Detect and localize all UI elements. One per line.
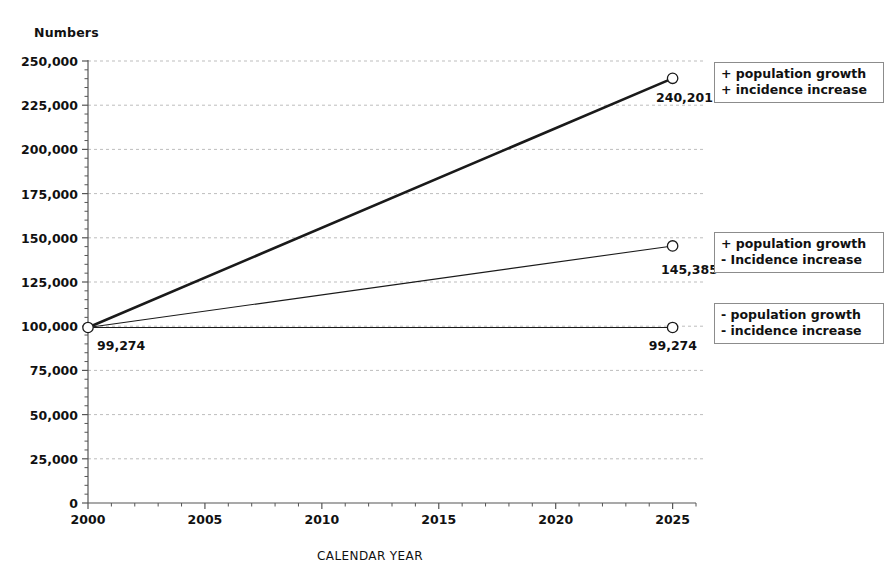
data-label-240201: 240,201 <box>656 90 713 105</box>
series-line-0 <box>88 78 673 327</box>
data-label-end-99274: 99,274 <box>649 338 697 353</box>
legend-item-1-line-2: - Incidence increase <box>721 252 877 268</box>
data-point-marker-end-2 <box>667 322 677 332</box>
legend-item-1-line-1: + population growth <box>721 236 877 252</box>
data-point-marker-origin <box>83 322 93 332</box>
legend-item-0[interactable]: + population growth + incidence increase <box>714 62 884 103</box>
data-point-marker-end-1 <box>667 241 677 251</box>
data-label-origin-99274: 99,274 <box>97 338 145 353</box>
legend-item-0-line-1: + population growth <box>721 66 877 82</box>
data-label-145385: 145,385 <box>661 262 718 277</box>
legend-item-2-line-2: - incidence increase <box>721 323 877 339</box>
x-axis-title: CALENDAR YEAR <box>0 549 740 563</box>
chart-container: Numbers 025,00050,00075,000100,000125,00… <box>0 0 891 581</box>
legend-item-1[interactable]: + population growth - Incidence increase <box>714 232 884 273</box>
legend-item-0-line-2: + incidence increase <box>721 82 877 98</box>
legend-item-2[interactable]: - population growth - incidence increase <box>714 303 884 344</box>
legend-item-2-line-1: - population growth <box>721 307 877 323</box>
series-line-1 <box>88 246 673 328</box>
data-point-marker-end-0 <box>667 73 677 83</box>
